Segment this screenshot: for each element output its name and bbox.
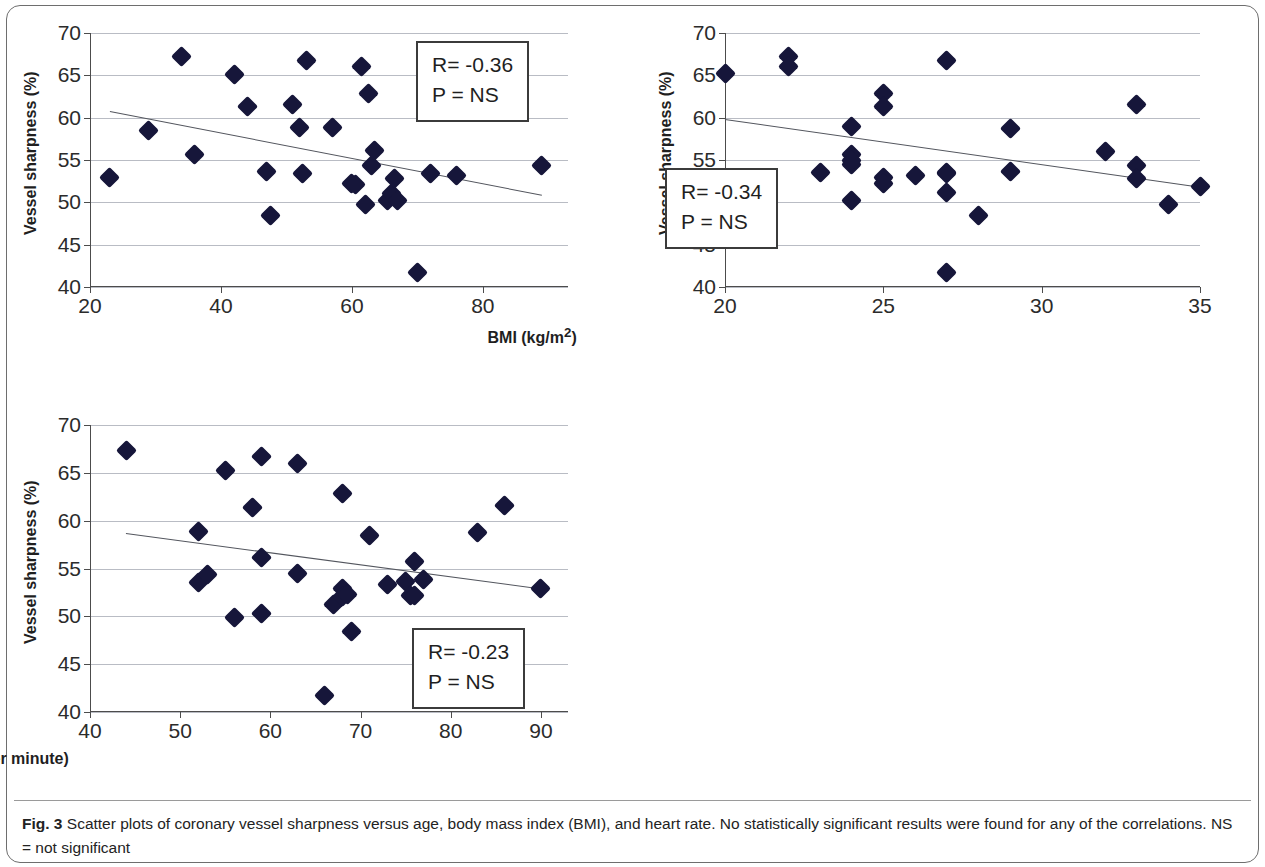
x-axis-tick xyxy=(451,712,452,718)
figure-page: 4045505560657020406080 Vessel sharpness … xyxy=(0,0,1265,867)
data-point xyxy=(259,205,280,226)
data-point xyxy=(251,603,272,624)
data-point xyxy=(407,262,428,283)
data-point xyxy=(1158,194,1179,215)
y-axis-tick-label: 45 xyxy=(58,652,81,676)
figure-caption: Fig. 3 Scatter plots of coronary vessel … xyxy=(22,812,1242,859)
y-axis-tick-label: 60 xyxy=(693,106,716,130)
x-axis-tick xyxy=(90,712,91,718)
x-axis-title-bmi: BMI (kg/m2) xyxy=(488,325,963,347)
x-axis-tick-label: 50 xyxy=(169,719,192,743)
y-axis-tick-label: 55 xyxy=(58,557,81,581)
y-axis-title-age: Vessel sharpness (%) xyxy=(22,71,40,235)
p-value-label-age: P = NS xyxy=(432,80,513,110)
gridline xyxy=(725,75,1200,76)
x-axis-tick-label: 80 xyxy=(439,719,462,743)
data-point xyxy=(332,483,353,504)
gridline xyxy=(90,616,568,617)
data-point xyxy=(714,63,735,84)
x-axis-tick-label: 40 xyxy=(209,294,232,318)
x-axis-tick xyxy=(361,712,362,718)
x-axis-tick-label: 60 xyxy=(259,719,282,743)
data-point xyxy=(999,160,1020,181)
data-point xyxy=(377,574,398,595)
x-axis-line xyxy=(90,711,568,712)
data-point xyxy=(936,163,957,184)
gridline xyxy=(90,569,568,570)
gridline xyxy=(90,712,568,713)
data-point xyxy=(256,160,277,181)
data-point xyxy=(1126,168,1147,189)
x-axis-tick-label: 20 xyxy=(713,294,736,318)
x-axis-tick-label: 25 xyxy=(872,294,895,318)
chart-panel-bmi: 4045505560657020253035 Vessel sharpness … xyxy=(635,0,1265,370)
data-point xyxy=(171,46,192,67)
data-point xyxy=(223,64,244,85)
data-point xyxy=(224,607,245,628)
figure-label: Fig. 3 xyxy=(22,815,62,832)
x-axis-tick xyxy=(180,712,181,718)
data-point xyxy=(446,165,467,186)
x-axis-tick-label: 90 xyxy=(529,719,552,743)
y-axis-title-heart-rate: Vessel sharpness (%) xyxy=(22,480,40,644)
gridline xyxy=(90,473,568,474)
data-point xyxy=(115,440,136,461)
y-axis-tick-label: 70 xyxy=(58,21,81,45)
data-point xyxy=(904,165,925,186)
data-point xyxy=(936,262,957,283)
data-point xyxy=(295,50,316,71)
data-point xyxy=(184,143,205,164)
x-axis-tick xyxy=(883,287,884,293)
x-axis-tick-label: 40 xyxy=(78,719,101,743)
x-axis-line xyxy=(90,286,568,287)
data-point xyxy=(314,685,335,706)
x-axis-tick xyxy=(270,712,271,718)
data-point xyxy=(841,116,862,137)
x-axis-tick-label: 20 xyxy=(78,294,101,318)
stat-box-age: R= -0.36 P = NS xyxy=(416,41,529,122)
gridline xyxy=(90,245,568,246)
plot-area-bmi: 4045505560657020253035 xyxy=(725,33,1200,287)
r-value-label-bmi: R= -0.34 xyxy=(681,177,762,207)
chart-panel-age: 4045505560657020406080 Vessel sharpness … xyxy=(0,0,630,370)
data-point xyxy=(358,83,379,104)
data-point xyxy=(292,163,313,184)
data-point xyxy=(1189,176,1210,197)
data-point xyxy=(530,578,551,599)
data-point xyxy=(873,96,894,117)
x-axis-tick-label: 30 xyxy=(1030,294,1053,318)
x-axis-tick xyxy=(352,287,353,293)
x-axis-line xyxy=(725,286,1200,287)
gridline xyxy=(725,202,1200,203)
data-point xyxy=(242,497,263,518)
x-axis-tick-label: 70 xyxy=(349,719,372,743)
y-axis-tick-label: 70 xyxy=(58,413,81,437)
gridline xyxy=(725,33,1200,34)
data-point xyxy=(138,120,159,141)
x-axis-tick xyxy=(1042,287,1043,293)
data-point xyxy=(531,154,552,175)
y-axis-tick-label: 65 xyxy=(693,63,716,87)
figure-caption-text: Scatter plots of coronary vessel sharpne… xyxy=(22,815,1232,856)
y-axis-tick-label: 60 xyxy=(58,106,81,130)
data-point xyxy=(188,521,209,542)
p-value-label-bmi: P = NS xyxy=(681,207,762,237)
y-axis-tick-label: 50 xyxy=(58,604,81,628)
data-point xyxy=(968,205,989,226)
data-point xyxy=(289,117,310,138)
y-axis-tick-label: 45 xyxy=(58,233,81,257)
data-point xyxy=(287,453,308,474)
caption-divider xyxy=(14,800,1251,801)
y-axis-tick-label: 55 xyxy=(58,148,81,172)
data-point xyxy=(1126,94,1147,115)
data-point xyxy=(351,56,372,77)
r-value-label-age: R= -0.36 xyxy=(432,50,513,80)
x-axis-tick xyxy=(1200,287,1201,293)
x-axis-tick xyxy=(90,287,91,293)
data-point xyxy=(99,167,120,188)
y-axis-tick-label: 50 xyxy=(58,190,81,214)
gridline xyxy=(90,287,568,288)
gridline xyxy=(90,521,568,522)
stat-box-bmi: R= -0.34 P = NS xyxy=(665,168,778,249)
y-axis-tick-label: 60 xyxy=(58,509,81,533)
